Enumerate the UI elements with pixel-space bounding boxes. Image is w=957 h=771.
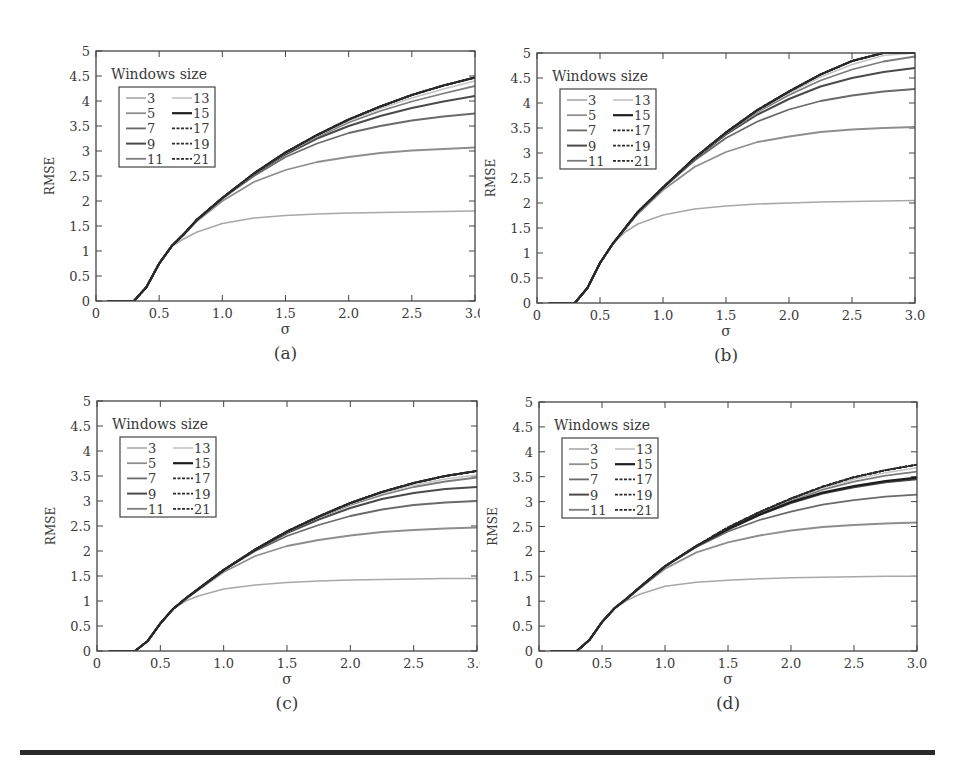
chart-panel-c: 00.511.522.533.544.5500.51.01.52.02.53.0… — [0, 350, 480, 730]
legend-label-19: 19 — [634, 139, 651, 154]
y-axis-label: RMSE — [486, 507, 500, 545]
legend-label-19: 19 — [193, 137, 210, 152]
legend-label-7: 7 — [147, 121, 155, 136]
x-tick-label: 3.0 — [905, 308, 926, 323]
legend-label-5: 5 — [148, 456, 156, 471]
legend-label-11: 11 — [590, 503, 607, 518]
legend-label-3: 3 — [147, 91, 155, 106]
y-tick-label: 2 — [525, 544, 533, 559]
chart-panel-b: 00.511.522.533.544.5500.51.01.52.02.53.0… — [478, 0, 957, 375]
legend-title: Windows size — [552, 68, 648, 84]
legend-label-13: 13 — [634, 93, 651, 108]
x-tick-label: 2.5 — [844, 656, 865, 671]
x-tick-label: 0 — [533, 308, 541, 323]
y-tick-label: 4.5 — [69, 69, 90, 84]
chart-svg-c: 00.511.522.533.544.5500.51.01.52.02.53.0… — [0, 350, 480, 730]
legend-label-15: 15 — [194, 456, 211, 471]
series-line-3 — [552, 576, 917, 651]
y-tick-label: 3 — [523, 146, 531, 161]
legend-label-9: 9 — [590, 488, 598, 503]
legend-label-21: 21 — [194, 502, 211, 517]
legend-label-21: 21 — [634, 154, 651, 169]
y-tick-label: 2 — [82, 194, 90, 209]
y-tick-label: 3 — [525, 495, 533, 510]
legend-label-9: 9 — [588, 139, 596, 154]
y-tick-label: 0 — [83, 644, 91, 659]
legend-label-17: 17 — [194, 471, 211, 486]
legend-label-5: 5 — [147, 106, 155, 121]
y-tick-label: 4 — [82, 94, 90, 109]
x-axis-label: σ — [281, 321, 291, 337]
x-tick-label: 1.5 — [716, 308, 737, 323]
y-tick-label: 1.5 — [69, 219, 90, 234]
legend-label-11: 11 — [148, 502, 165, 517]
legend-label-19: 19 — [636, 488, 653, 503]
y-tick-label: 1 — [83, 594, 91, 609]
legend-label-15: 15 — [634, 108, 651, 123]
y-tick-label: 1.5 — [512, 569, 533, 584]
y-tick-label: 0.5 — [510, 271, 531, 286]
legend-title: Windows size — [112, 416, 208, 432]
legend-label-7: 7 — [590, 472, 598, 487]
legend-label-11: 11 — [588, 154, 605, 169]
legend-label-15: 15 — [193, 106, 210, 121]
legend-label-9: 9 — [148, 487, 156, 502]
legend-label-21: 21 — [193, 152, 210, 167]
y-tick-label: 2.5 — [70, 519, 91, 534]
y-tick-label: 4.5 — [512, 420, 533, 435]
y-tick-label: 3.5 — [69, 119, 90, 134]
chart-panel-a: 00.511.522.533.544.5500.51.01.52.02.53.0… — [0, 0, 480, 375]
x-axis-label: σ — [721, 323, 731, 339]
panel-caption: (c) — [276, 693, 299, 713]
legend-label-17: 17 — [193, 121, 210, 136]
y-tick-label: 1.5 — [70, 569, 91, 584]
x-tick-label: 1.5 — [275, 306, 296, 321]
y-tick-label: 1 — [523, 246, 531, 261]
panel-caption: (d) — [716, 693, 740, 713]
legend-label-13: 13 — [636, 442, 653, 457]
y-tick-label: 3 — [82, 144, 90, 159]
x-tick-label: 2.5 — [403, 656, 424, 671]
legend-label-3: 3 — [148, 441, 156, 456]
y-tick-label: 5 — [83, 394, 91, 409]
legend-label-3: 3 — [590, 442, 598, 457]
x-tick-label: 2.5 — [842, 308, 863, 323]
legend-title: Windows size — [554, 417, 650, 433]
legend-label-17: 17 — [634, 123, 651, 138]
y-tick-label: 4 — [525, 445, 533, 460]
y-tick-label: 4 — [83, 444, 91, 459]
x-axis-label: σ — [282, 671, 292, 687]
legend-label-11: 11 — [147, 152, 164, 167]
chart-svg-d: 00.511.522.533.544.5500.51.01.52.02.53.0… — [478, 350, 957, 730]
y-tick-label: 4 — [523, 96, 531, 111]
legend-label-7: 7 — [588, 123, 596, 138]
legend-label-9: 9 — [147, 137, 155, 152]
y-tick-label: 5 — [82, 44, 90, 59]
x-tick-label: 0.5 — [590, 308, 611, 323]
y-tick-label: 2 — [523, 196, 531, 211]
y-tick-label: 0.5 — [70, 619, 91, 634]
chart-svg-a: 00.511.522.533.544.5500.51.01.52.02.53.0… — [0, 0, 480, 375]
x-tick-label: 1.0 — [655, 656, 676, 671]
chart-svg-b: 00.511.522.533.544.5500.51.01.52.02.53.0… — [478, 0, 957, 375]
y-tick-label: 0.5 — [512, 619, 533, 634]
x-tick-label: 0.5 — [150, 656, 171, 671]
x-tick-label: 2.0 — [340, 656, 361, 671]
y-tick-label: 1.5 — [510, 221, 531, 236]
legend-label-21: 21 — [636, 503, 653, 518]
legend-label-13: 13 — [193, 91, 210, 106]
y-tick-label: 2.5 — [69, 169, 90, 184]
legend-label-17: 17 — [636, 472, 653, 487]
series-line-7 — [110, 501, 477, 651]
x-tick-label: 2.0 — [338, 306, 359, 321]
y-tick-label: 1 — [82, 244, 90, 259]
legend-label-7: 7 — [148, 471, 156, 486]
legend-label-15: 15 — [636, 457, 653, 472]
y-tick-label: 0 — [82, 294, 90, 309]
y-axis-label: RMSE — [43, 157, 57, 195]
x-tick-label: 1.5 — [718, 656, 739, 671]
y-tick-label: 5 — [523, 46, 531, 61]
y-tick-label: 2.5 — [510, 171, 531, 186]
y-tick-label: 4.5 — [70, 419, 91, 434]
y-tick-label: 2.5 — [512, 520, 533, 535]
